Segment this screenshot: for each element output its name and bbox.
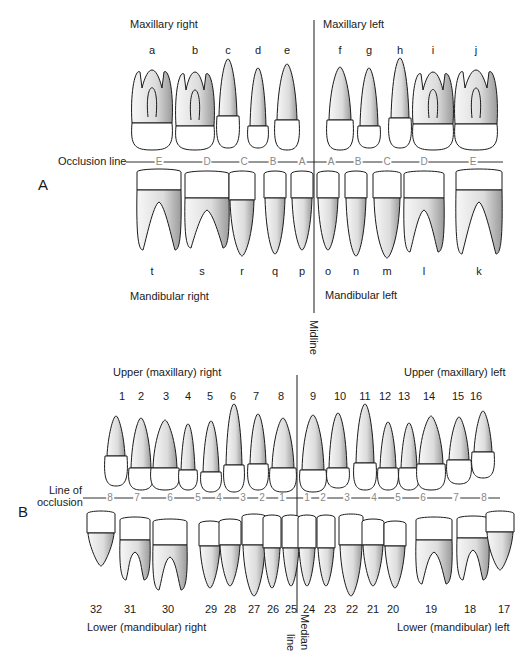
tooth-crown [242,514,266,545]
tooth-crown [87,511,115,533]
tooth-crown [317,171,339,198]
tooth-crown [300,470,327,492]
occlusion-mark: D [202,157,211,167]
tooth-crown [345,171,367,198]
occlusion-mark: B [269,157,278,167]
tooth-root [131,418,151,468]
median-line-label: Median [299,614,311,650]
tooth-letter-label: g [366,44,372,56]
tooth-crown [457,516,489,538]
tooth-crown [447,460,472,484]
tooth-crown [270,468,297,492]
tooth-letter-label: b [192,44,198,56]
tooth-crown [248,126,269,148]
tooth-letter-label: p [299,265,305,277]
maxillary-left-label: Maxillary left [323,18,384,30]
tooth-crown [362,519,384,545]
occlusion-mark: E [155,157,164,167]
tooth-crown [417,464,446,490]
tooth-number-label: 32 [90,603,102,615]
tooth-letter-label: h [397,44,403,56]
tooth-root [230,200,254,256]
tooth-crown [378,468,399,490]
tooth-number-label: 28 [224,603,236,615]
mandibular-right-label: Mandibular right [130,290,209,302]
tooth-number-label: 16 [470,390,482,402]
tooth-crown [275,120,300,150]
tooth-crown [339,514,363,545]
maxillary-right-label: Maxillary right [130,18,198,30]
tooth-root [419,416,443,464]
tooth-root [413,72,454,124]
tooth-number-label: 8 [278,390,284,402]
tooth-root [318,548,334,586]
tooth-number-label: 30 [162,603,174,615]
occlusion-mark: 3 [239,493,247,503]
tooth-number-label: 2 [138,390,144,402]
tooth-number-label: 19 [425,603,437,615]
tooth-root [416,540,452,584]
occlusion-mark: 8 [106,493,114,503]
tooth-letter-label: d [255,44,261,56]
tooth-number-label: 26 [267,603,279,615]
lower-mandibular-left-label: Lower (mandibular) left [397,621,510,633]
tooth-letter-label: r [240,265,244,277]
tooth-crown [282,515,300,548]
occlusion-mark: 3 [343,493,351,503]
tooth-letter-label: n [353,265,359,277]
lower-mandibular-right-label: Lower (mandibular) right [87,621,206,633]
occlusion-mark: 7 [452,493,460,503]
tooth-root [132,70,173,123]
tooth-number-label: 10 [334,390,346,402]
tooth-number-label: 15 [452,390,464,402]
tooth-root [385,546,405,588]
tooth-root [107,416,125,456]
occlusion-line-label: Occlusion line [58,155,126,167]
tooth-crown [455,124,498,150]
occlusion-mark: 5 [194,493,202,503]
tooth-crown [327,468,350,488]
tooth-number-label: 5 [207,390,213,402]
tooth-crown [185,171,229,198]
midline-label: Midline [308,320,320,355]
tooth-number-label: 17 [498,603,510,615]
occlusion-mark: 5 [394,493,402,503]
tooth-number-label: 31 [124,603,136,615]
median-line-label-2: line [285,634,297,651]
tooth-crown [151,468,180,490]
tooth-root [226,404,242,465]
tooth-root [474,411,492,452]
tooth-number-label: 21 [367,603,379,615]
tooth-crown [358,126,381,148]
tooth-root [176,72,215,126]
tooth-number-label: 27 [248,603,260,615]
tooth-root [449,417,469,460]
tooth-crown [132,123,173,150]
tooth-root [455,70,498,124]
panel-a-label: A [38,176,48,193]
tooth-crown [229,171,255,200]
tooth-crown [373,171,401,198]
tooth-root [487,532,513,570]
occlusion-mark: E [469,157,478,167]
occlusion-mark: 1 [278,493,286,503]
tooth-crown [153,519,187,545]
tooth-root [220,545,240,586]
tooth-root [181,424,195,470]
tooth-number-label: 12 [379,390,391,402]
tooth-crown [199,521,221,546]
tooth-letter-label: q [272,265,278,277]
tooth-crown [298,515,316,548]
tooth-letter-label: e [284,44,290,56]
tooth-root [374,198,400,258]
tooth-crown [219,519,241,545]
tooth-crown [248,464,269,490]
tooth-root [265,198,285,254]
upper-maxillary-right-label: Upper (maxillary) right [113,366,221,378]
tooth-root [264,548,280,588]
tooth-crown [456,169,502,190]
tooth-letter-label: i [432,44,434,56]
tooth-root [363,545,383,586]
tooth-letter-label: m [382,265,391,277]
line-of-occlusion-label-2: occlusion [37,496,83,508]
